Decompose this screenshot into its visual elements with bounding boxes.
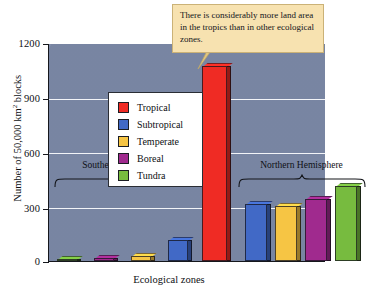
bar-southern-subtropical [168,240,188,261]
legend-item-tropical: Tropical [118,99,202,116]
legend-swatch-tropical [118,102,129,113]
legend-swatch-tundra [118,170,129,181]
bar-side [327,199,331,261]
bar-top [133,253,156,256]
legend-swatch-temperate [118,136,129,147]
bar-northern-tundra [335,186,357,261]
y-axis-title: Number of 50,000 km2 blocks [11,63,24,213]
bar-southern-temperate [131,256,151,261]
legend-label-boreal: Boreal [137,153,164,164]
bar-face [131,256,151,261]
bar-northern-subtropical [245,204,267,261]
bar-side [227,66,231,261]
brace-northern [237,174,367,188]
legend-item-tundra: Tundra [118,167,202,184]
bar-face [245,204,267,261]
bar-northern-boreal [305,199,327,261]
group-label-northern: Northern Hemisphere [234,160,369,170]
y-tick-label-1200: 1200 [0,38,40,49]
plot-area: Southern Hemisphere Northern Hemisphere … [48,44,325,262]
legend-item-temperate: Temperate [118,133,202,150]
y-tick-label-0: 0 [0,256,40,267]
bar-side [151,256,155,261]
y-axis-title-superscript: 2 [11,105,19,109]
legend-label-temperate: Temperate [137,136,179,147]
y-tick-label-900: 900 [0,93,40,104]
x-axis-title: Ecological zones [0,274,338,285]
y-tick-mark-0 [43,262,49,263]
legend-label-tundra: Tundra [137,170,166,181]
bar-side [188,240,192,261]
bar-northern-temperate [275,206,297,261]
bar-side [267,204,271,261]
bar-face [202,66,227,261]
bar-side [357,186,361,261]
bar-southern-boreal [94,258,114,261]
bar-face [305,199,327,261]
bar-tropical [202,66,227,261]
bar-southern-tundra [57,259,77,261]
legend-label-tropical: Tropical [137,102,171,113]
y-tick-label-600: 600 [0,148,40,159]
bar-face [335,186,357,261]
bar-side [297,206,301,261]
legend-swatch-subtropical [118,119,129,130]
y-tick-label-300: 300 [0,203,40,214]
callout-annotation: There is considerably more land area in … [172,4,324,53]
bar-side [114,258,118,261]
bar-face [275,206,297,261]
bar-face [94,258,114,261]
bar-top [59,256,82,259]
legend-item-subtropical: Subtropical [118,116,202,133]
legend: Tropical Subtropical Temperate Boreal Tu… [108,92,203,187]
legend-swatch-boreal [118,153,129,164]
bar-face [57,259,77,261]
legend-label-subtropical: Subtropical [137,119,183,130]
legend-item-boreal: Boreal [118,150,202,167]
bar-side [77,259,81,261]
bar-face [168,240,188,261]
